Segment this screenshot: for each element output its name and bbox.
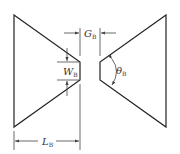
width-label: WB xyxy=(63,66,78,78)
length-label: LB xyxy=(41,136,54,148)
bowtie-diagram: GB WB θB LB xyxy=(0,0,180,154)
gap-label: GB xyxy=(84,28,97,40)
angle-label: θB xyxy=(116,65,127,77)
right-bowtie-arm xyxy=(100,15,166,127)
